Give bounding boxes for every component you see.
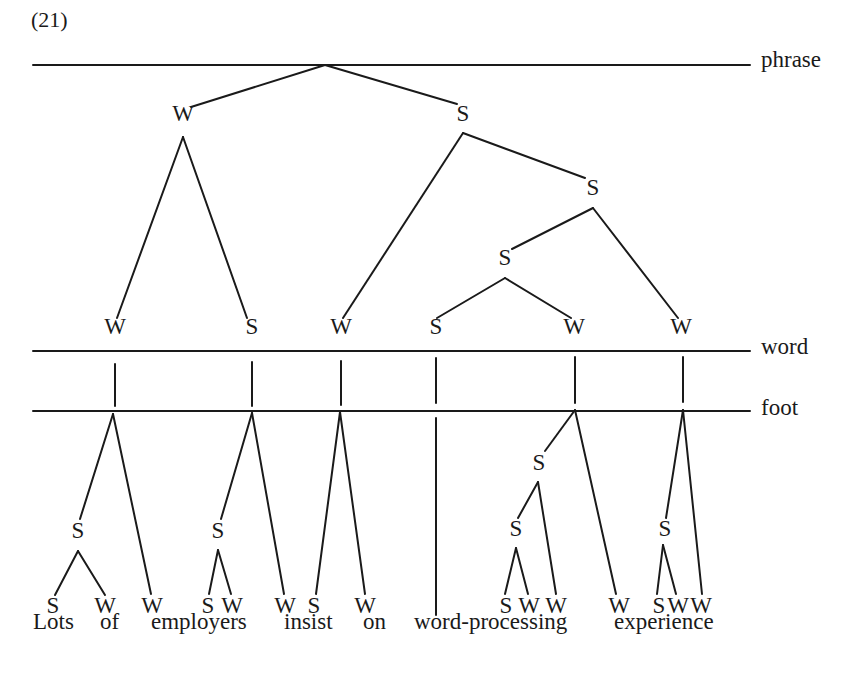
tree-edge bbox=[316, 412, 340, 594]
tree-node-s: S bbox=[499, 246, 512, 269]
sentence-word: of bbox=[100, 610, 119, 633]
sentence-word: experience bbox=[614, 610, 714, 633]
tree-node-w: W bbox=[104, 315, 126, 338]
metrical-tree-diagram: (21) phrase word foot WSSSWSWSWWSSSSSSWW… bbox=[0, 0, 852, 674]
tree-edge bbox=[209, 550, 218, 594]
tree-edge bbox=[505, 548, 516, 594]
tree-edge bbox=[218, 550, 231, 594]
tree-node-s: S bbox=[457, 102, 470, 125]
tree-edge bbox=[221, 413, 252, 519]
tier-label-foot: foot bbox=[761, 396, 798, 419]
tier-label-word: word bbox=[761, 335, 808, 358]
tree-node-s: S bbox=[510, 517, 523, 540]
tree-edge bbox=[516, 548, 528, 594]
tree-node-s: S bbox=[430, 315, 443, 338]
tree-edge bbox=[666, 410, 683, 518]
tree-edge bbox=[545, 410, 575, 451]
sentence-word: Lots bbox=[33, 610, 74, 633]
sentence-word: employers bbox=[151, 610, 247, 633]
tree-node-s: S bbox=[533, 451, 546, 474]
tree-edge bbox=[437, 278, 505, 318]
tree-node-s: S bbox=[246, 315, 259, 338]
tree-node-s: S bbox=[587, 176, 600, 199]
tree-edge bbox=[512, 208, 593, 249]
tree-edge bbox=[463, 133, 585, 178]
tree-edge bbox=[593, 208, 678, 318]
tree-node-w: W bbox=[330, 315, 352, 338]
tree-lines bbox=[0, 0, 852, 674]
tree-node-s: S bbox=[212, 519, 225, 542]
tree-edge bbox=[518, 482, 538, 518]
tree-node-w: W bbox=[172, 102, 194, 125]
tree-edge bbox=[657, 545, 663, 594]
tree-edge bbox=[325, 65, 457, 104]
tree-edge bbox=[340, 412, 365, 594]
tree-edge bbox=[575, 410, 616, 594]
tree-edge bbox=[683, 410, 702, 594]
tree-edge bbox=[505, 278, 571, 318]
example-number: (21) bbox=[31, 9, 68, 31]
tree-edge bbox=[113, 414, 151, 594]
tier-label-phrase: phrase bbox=[761, 48, 821, 71]
tree-edge bbox=[191, 65, 325, 107]
tree-node-s: S bbox=[72, 519, 85, 542]
sentence-word: insist bbox=[284, 610, 333, 633]
tree-edge bbox=[343, 133, 463, 318]
sentence-word: on bbox=[363, 610, 386, 633]
tree-edge bbox=[117, 137, 183, 318]
tree-edge bbox=[183, 137, 247, 318]
tree-edge bbox=[538, 482, 556, 594]
sentence-word: word-processing bbox=[414, 610, 567, 633]
tree-node-w: W bbox=[670, 315, 692, 338]
tree-edge bbox=[252, 413, 284, 594]
tree-edge bbox=[663, 545, 676, 594]
tree-edge bbox=[55, 551, 78, 595]
tree-node-s: S bbox=[659, 517, 672, 540]
tree-node-w: W bbox=[563, 315, 585, 338]
tree-edge bbox=[78, 551, 105, 595]
tree-edge bbox=[80, 414, 113, 519]
